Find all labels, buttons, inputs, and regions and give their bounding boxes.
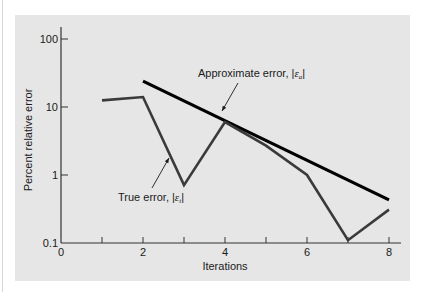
y-axis-title: Percent relative error: [22, 88, 34, 191]
y-tick-label: 10: [46, 101, 58, 113]
chart-svg: 0.111010002468IterationsPercent relative…: [0, 0, 421, 292]
true-error-line: [102, 97, 389, 240]
x-tick-label: 0: [58, 246, 64, 258]
x-tick-label: 6: [304, 246, 310, 258]
x-axis-title: Iterations: [202, 260, 248, 272]
y-tick-label: 0.1: [43, 237, 58, 249]
true-error-label: True error, |εt|: [118, 191, 184, 205]
y-tick-label: 1: [52, 169, 58, 181]
approximate-error-arrow-head: [222, 106, 226, 111]
annotations: Approximate error, |εa|True error, |εt|: [118, 67, 305, 205]
approximate-error-label: Approximate error, |εa|: [198, 67, 305, 81]
true-error-arrow: [152, 158, 169, 188]
x-tick-label: 2: [140, 246, 146, 258]
x-tick-label: 4: [222, 246, 228, 258]
approximate-error-line: [143, 81, 389, 200]
y-tick-label: 100: [40, 33, 58, 45]
series-lines: [102, 81, 389, 240]
x-tick-label: 8: [386, 246, 392, 258]
true-error-arrow-head: [165, 158, 169, 163]
